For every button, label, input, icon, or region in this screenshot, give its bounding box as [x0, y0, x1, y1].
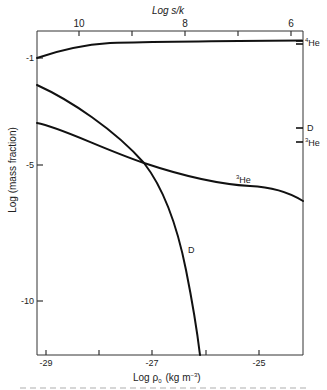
curve-deuterium — [37, 85, 200, 355]
curve-he3 — [37, 123, 303, 201]
bottom-tick-label-minus25: -25 — [252, 358, 265, 368]
top-tick-label-8: 8 — [182, 18, 188, 29]
bottom-axis-ticks — [46, 350, 259, 355]
left-tick-label-minus1: -1 — [26, 53, 34, 63]
curve-label-d: D — [188, 245, 195, 255]
left-axis-ticks — [37, 58, 43, 301]
top-tick-label-10: 10 — [73, 18, 85, 29]
left-tick-label-minus5: -5 — [26, 160, 34, 170]
right-label-he3: 3He — [305, 137, 320, 148]
axes-frame — [37, 31, 303, 355]
top-tick-label-6: 6 — [288, 18, 294, 29]
x-axis-title: Log ρ0(kg m−3) — [133, 372, 201, 384]
top-axis-ticks — [79, 31, 291, 36]
right-label-d: D — [307, 123, 314, 133]
chart-canvas: 10 8 6 Log s/k -1 -5 -10 Log (mass fract… — [0, 0, 327, 390]
y-axis-title: Log (mass fraction) — [7, 127, 18, 213]
clipped-caption-line — [0, 386, 327, 390]
top-axis-title: Log s/k — [152, 5, 185, 16]
bottom-tick-label-minus29: -29 — [39, 358, 52, 368]
right-label-he4: 4He — [305, 37, 320, 48]
left-tick-label-minus10: -10 — [21, 296, 34, 306]
right-margin-markers — [296, 41, 303, 142]
curve-label-he3: 3He — [236, 174, 251, 185]
bottom-tick-label-minus27: -27 — [145, 358, 158, 368]
curve-he4 — [37, 41, 302, 59]
